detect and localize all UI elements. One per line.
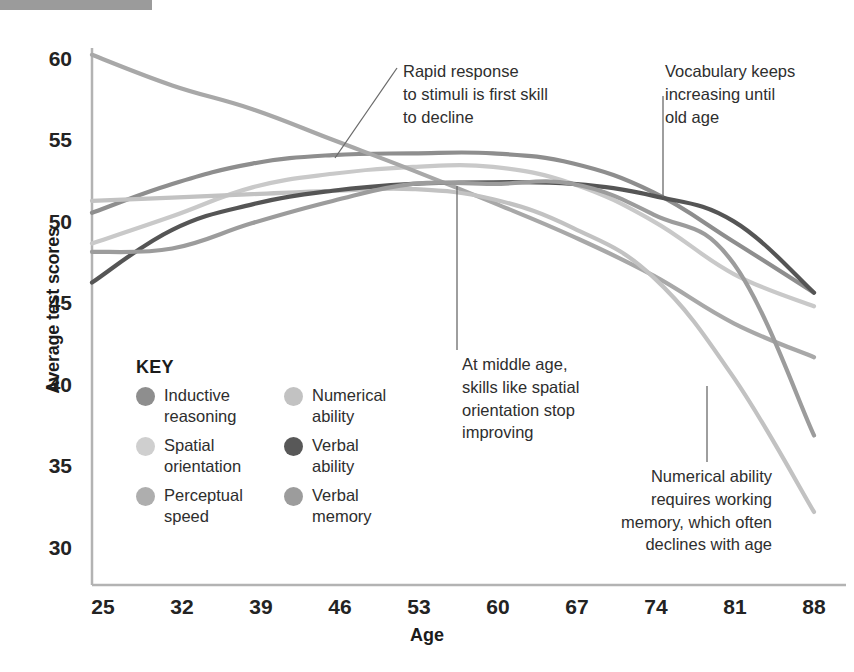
- legend-item: Numerical ability: [284, 385, 434, 435]
- x-tick-label: 74: [626, 595, 686, 619]
- legend-color-dot: [284, 437, 303, 456]
- legend-item: Perceptual speed: [136, 485, 284, 535]
- x-tick-label: 46: [310, 595, 370, 619]
- annotation-middle-age: At middle age, skills like spatial orien…: [462, 353, 632, 444]
- y-tick-label: 30: [26, 536, 72, 560]
- annotation-vocabulary: Vocabulary keeps increasing until old ag…: [665, 60, 830, 128]
- legend-item-label: Inductive reasoning: [164, 385, 236, 426]
- y-tick-label: 55: [26, 128, 72, 152]
- line-chart: 60 55 50 45 40 35 30 25 32 39 46 53 60 6…: [0, 0, 854, 672]
- x-tick-label: 67: [547, 595, 607, 619]
- x-tick-label: 88: [784, 595, 844, 619]
- legend-item-label: Verbal memory: [312, 485, 372, 526]
- legend-title: KEY: [136, 357, 436, 378]
- legend-items: Inductive reasoningNumerical abilitySpat…: [136, 385, 436, 535]
- chart-page: 60 55 50 45 40 35 30 25 32 39 46 53 60 6…: [0, 0, 854, 672]
- series-line: [92, 152, 814, 292]
- legend-item: Inductive reasoning: [136, 385, 284, 435]
- annotation-rapid-response: Rapid response to stimuli is first skill…: [403, 60, 588, 128]
- legend-item-label: Numerical ability: [312, 385, 386, 426]
- legend-item: Verbal memory: [284, 485, 434, 535]
- x-tick-label: 25: [73, 595, 133, 619]
- legend-color-dot: [136, 437, 155, 456]
- legend-color-dot: [136, 387, 155, 406]
- y-tick-label: 35: [26, 454, 72, 478]
- x-tick-label: 32: [152, 595, 212, 619]
- y-axis-title: Average test scores: [43, 211, 64, 411]
- legend-color-dot: [284, 387, 303, 406]
- y-tick-label: 60: [26, 47, 72, 71]
- legend-color-dot: [136, 487, 155, 506]
- legend-color-dot: [284, 487, 303, 506]
- x-tick-label: 60: [468, 595, 528, 619]
- legend-item: Spatial orientation: [136, 435, 284, 485]
- annotation-numerical-ability: Numerical ability requires working memor…: [560, 465, 772, 556]
- x-axis-title: Age: [0, 625, 854, 646]
- legend-item: Verbal ability: [284, 435, 434, 485]
- x-tick-label: 53: [389, 595, 449, 619]
- legend-item-label: Perceptual speed: [164, 485, 243, 526]
- leader-line-rapid: [335, 68, 397, 158]
- legend-item-label: Verbal ability: [312, 435, 359, 476]
- x-tick-label: 81: [705, 595, 765, 619]
- legend-item-label: Spatial orientation: [164, 435, 241, 476]
- chart-legend: KEY Inductive reasoningNumerical ability…: [136, 357, 436, 535]
- x-tick-label: 39: [231, 595, 291, 619]
